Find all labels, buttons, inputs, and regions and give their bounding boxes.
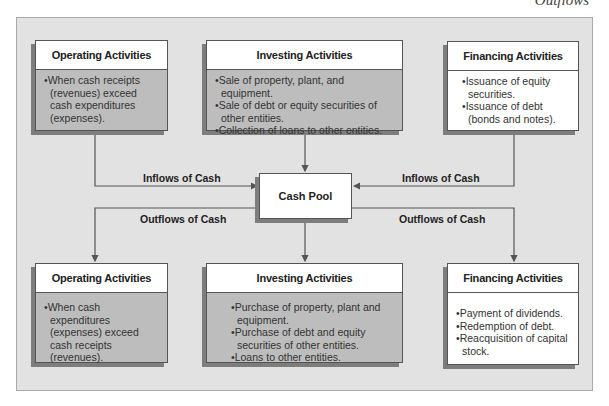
list-item: Purchase of debt and equity securities o… [231,326,388,351]
outflow-label-left: Outflows of Cash [140,213,226,225]
inflow-label-left: Inflows of Cash [143,172,221,184]
bottom-operating-activities-box: Operating Activities When cash expenditu… [35,263,168,363]
box-title: Operating Activities [36,41,167,70]
list-item: Collection of loans to other entities. [215,124,396,137]
list-item: Issuance of equity securities. [456,75,572,100]
box-title: Financing Activities [448,42,578,71]
inflow-label-right: Inflows of Cash [402,172,480,184]
outflow-label-right: Outflows of Cash [399,213,485,225]
list-item: Issuance of debt (bonds and notes). [456,100,572,125]
box-title: Operating Activities [36,264,167,293]
list-item: Sale of property, plant, and equipment. [215,74,396,99]
list-item: Payment of dividends. [456,307,572,320]
cash-pool-box: Cash Pool [259,173,352,219]
list-item: Sale of debt or equity securities of oth… [215,99,396,124]
top-financing-activities-box: Financing Activities Issuance of equity … [447,41,579,131]
top-investing-activities-box: Investing Activities Sale of property, p… [206,40,403,131]
list-item: When cash receipts (revenues) exceed cas… [44,74,161,124]
list-item: Redemption of debt. [456,320,572,333]
bottom-investing-activities-box: Investing Activities Purchase of propert… [206,263,403,363]
top-operating-activities-box: Operating Activities When cash receipts … [35,40,168,131]
list-item: When cash expenditures (expenses) exceed… [44,301,161,364]
bottom-financing-activities-box: Financing Activities Payment of dividend… [447,263,579,365]
list-item: Purchase of property, plant and equipmen… [231,301,388,326]
box-title: Investing Activities [207,41,402,70]
list-item: Loans to other entities. [231,351,388,364]
list-item: Reacquisition of capital stock. [456,332,572,357]
box-title: Financing Activities [448,264,578,293]
box-title: Investing Activities [207,264,402,293]
